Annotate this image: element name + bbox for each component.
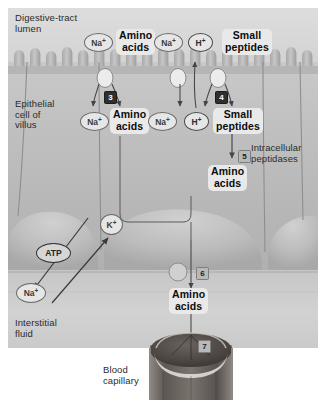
diagram-canvas <box>0 0 326 418</box>
step-7-badge: 7 <box>198 340 211 353</box>
ion-na-cyto-2: Na+ <box>148 112 177 131</box>
amino-acids-digested-label: Amino acids <box>208 165 247 191</box>
atp-text: ATP <box>45 248 61 258</box>
ion-na-cyto-1-text: Na <box>87 117 98 127</box>
ion-h-cyto: H+ <box>184 112 209 131</box>
lumen-label: Digestive-tract lumen <box>15 13 77 34</box>
atp-molecule: ATP <box>36 243 71 263</box>
small-peptides-cyto-label: Small peptides <box>213 108 263 134</box>
ion-k-text: K <box>107 220 113 230</box>
ion-na-lumen-2: Na+ <box>154 33 183 52</box>
ion-na-cyto-2-text: Na <box>155 117 166 127</box>
amino-acids-lumen-label: Amino acids <box>116 29 155 55</box>
blood-capillary <box>150 333 232 400</box>
amino-acids-basal-label: Amino acids <box>169 288 208 314</box>
ion-h-lumen: H+ <box>188 33 213 52</box>
ion-na-interstitial-text: Na <box>24 288 35 298</box>
ion-na-cyto-1: Na+ <box>80 112 109 131</box>
ion-na-lumen-1: Na+ <box>84 33 113 52</box>
step-5-badge: 5 <box>238 150 251 163</box>
ion-na-interstitial: Na+ <box>16 283 46 303</box>
blood-capillary-label: Blood capillary <box>103 365 139 386</box>
ion-h-cyto-text: H <box>192 117 198 127</box>
step-6-badge: 6 <box>196 267 209 280</box>
epithelial-cell-body <box>8 62 318 272</box>
basolateral-transporter <box>169 263 187 281</box>
intracellular-peptidases-label: Intracellular peptidases <box>251 143 301 164</box>
amino-acids-cyto-label: Amino acids <box>110 108 149 134</box>
ion-h-lumen-text: H <box>196 38 202 48</box>
ion-na-lumen-2-text: Na <box>161 38 172 48</box>
diagram-figure: Digestive-tract lumen Epithelial cell of… <box>0 0 326 418</box>
step-3-badge: 3 <box>104 91 117 104</box>
ion-k-interstitial: K+ <box>100 214 123 235</box>
epithelial-cell-label: Epithelial cell of villus <box>15 99 55 131</box>
small-peptides-lumen-label: Small peptides <box>222 29 272 55</box>
interstitial-fluid-label: Interstitial fluid <box>15 318 57 339</box>
ion-na-lumen-1-text: Na <box>91 38 102 48</box>
step-4-badge: 4 <box>215 91 228 104</box>
